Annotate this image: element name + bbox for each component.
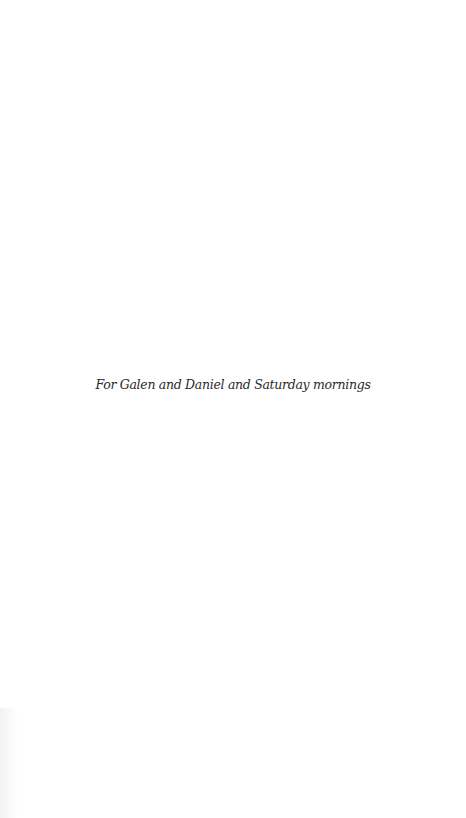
page-edge-shadow (0, 708, 18, 818)
book-page: For Galen and Daniel and Saturday mornin… (0, 0, 466, 818)
dedication-text: For Galen and Daniel and Saturday mornin… (0, 375, 466, 395)
